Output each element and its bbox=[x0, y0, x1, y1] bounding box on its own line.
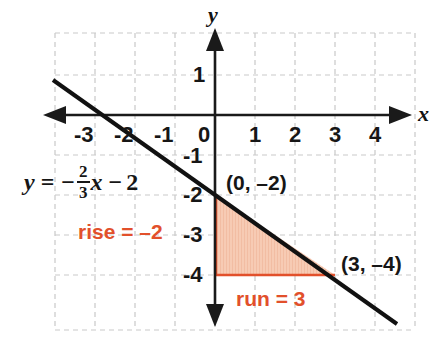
function-line bbox=[53, 80, 397, 324]
y-tick-label-neg1: -1 bbox=[183, 145, 203, 167]
y-tick-label-neg2: -2 bbox=[183, 184, 203, 206]
equation-minus: − bbox=[58, 170, 76, 194]
rise-label: rise = –2 bbox=[78, 221, 163, 242]
equation-operator: − bbox=[105, 170, 127, 194]
x-tick-label-neg1: -1 bbox=[154, 124, 174, 146]
point-label-intercept: (0, –2) bbox=[226, 172, 287, 193]
line-equation: y = − 2 3 x − 2 bbox=[24, 163, 138, 202]
equation-equals: = bbox=[37, 170, 59, 194]
equation-constant: 2 bbox=[126, 170, 138, 194]
equation-lhs: y bbox=[24, 170, 37, 194]
equation-variable: x bbox=[91, 170, 105, 194]
graph-figure: -3 -2 -1 0 1 2 3 4 1 -1 -2 -3 -4 y x y =… bbox=[0, 0, 441, 351]
x-tick-label-neg3: -3 bbox=[74, 124, 94, 146]
y-axis bbox=[206, 28, 224, 327]
x-tick-label-1: 1 bbox=[249, 124, 261, 146]
x-tick-label-4: 4 bbox=[369, 124, 381, 146]
y-tick-label-neg3: -3 bbox=[183, 224, 203, 246]
y-tick-label-neg4: -4 bbox=[183, 264, 203, 286]
fraction-denominator: 3 bbox=[77, 181, 90, 201]
fraction-numerator: 2 bbox=[77, 163, 90, 181]
y-axis-label: y bbox=[208, 4, 218, 26]
x-tick-label-3: 3 bbox=[329, 124, 341, 146]
x-axis-label: x bbox=[418, 103, 429, 125]
point-label-second: (3, –4) bbox=[341, 253, 402, 274]
equation-fraction: 2 3 bbox=[77, 163, 90, 202]
run-label: run = 3 bbox=[236, 288, 305, 309]
y-tick-label-1: 1 bbox=[193, 64, 205, 86]
x-tick-label-2: 2 bbox=[289, 124, 301, 146]
x-axis bbox=[43, 106, 412, 124]
x-tick-label-neg2: -2 bbox=[114, 124, 134, 146]
